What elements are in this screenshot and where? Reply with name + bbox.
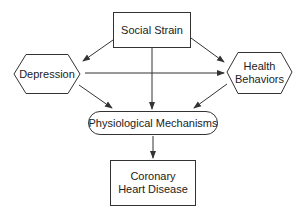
health-behaviors-label: Health Behaviors — [227, 52, 292, 94]
coronary-heart-disease-label: Coronary Heart Disease — [110, 160, 196, 206]
health-behaviors-line2: Behaviors — [235, 73, 284, 86]
physiological-mechanisms-label: Physiological Mechanisms — [88, 111, 218, 135]
diagram-canvas: Social Strain Depression Health Behavior… — [0, 0, 299, 212]
edge-social-to-depression — [83, 40, 113, 61]
edge-depression-to-physiological — [79, 85, 112, 108]
depression-label: Depression — [14, 54, 80, 94]
edge-social-to-health — [191, 38, 224, 62]
social-strain-label: Social Strain — [113, 12, 191, 48]
health-behaviors-line1: Health — [244, 60, 276, 73]
chd-line2: Heart Disease — [118, 183, 188, 196]
edge-health-to-physiological — [194, 84, 227, 108]
chd-line1: Coronary — [130, 170, 175, 183]
